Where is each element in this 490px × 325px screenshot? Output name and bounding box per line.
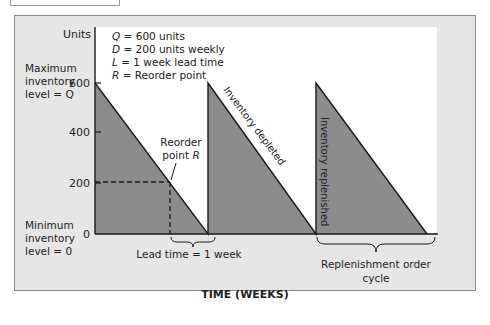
svg-text:level = 0: level = 0: [25, 245, 72, 257]
min-level-label: Minimum inventory level = 0: [25, 219, 75, 257]
svg-text:Replenishment order: Replenishment order: [321, 258, 432, 270]
svg-text:inventory: inventory: [25, 75, 75, 87]
cycle-brace: [317, 237, 435, 252]
tick-400: 400: [69, 126, 90, 139]
max-level-label: Maximum inventory level = Q: [25, 62, 77, 100]
lead-time-brace: [171, 237, 215, 247]
inventory-replenished-label: Inventory replenished: [319, 117, 330, 226]
y-axis-label: Units: [63, 28, 91, 41]
svg-text:D = 200 units weekly: D = 200 units weekly: [112, 43, 225, 55]
svg-text:point R: point R: [162, 149, 199, 161]
lead-time-label: Lead time = 1 week: [136, 248, 242, 260]
svg-text:inventory: inventory: [25, 232, 75, 244]
svg-text:Reorder: Reorder: [160, 136, 202, 148]
reorder-point-label: Reorder point R: [160, 136, 202, 161]
svg-text:level = Q: level = Q: [25, 88, 74, 100]
svg-text:Maximum: Maximum: [25, 62, 77, 74]
svg-text:L = 1 week lead time: L = 1 week lead time: [112, 56, 224, 68]
tick-0: 0: [83, 228, 90, 241]
inventory-chart: 600 400 200 0 Units Maximum inventory le…: [0, 0, 490, 325]
svg-text:Minimum: Minimum: [25, 219, 74, 231]
x-axis-label: TIME (WEEKS): [201, 288, 289, 301]
svg-text:R = Reorder point: R = Reorder point: [112, 69, 206, 81]
tick-200: 200: [69, 177, 90, 190]
svg-text:Q = 600 units: Q = 600 units: [112, 30, 185, 42]
replenishment-cycle-label: Replenishment order cycle: [321, 258, 432, 284]
svg-text:cycle: cycle: [362, 272, 389, 284]
